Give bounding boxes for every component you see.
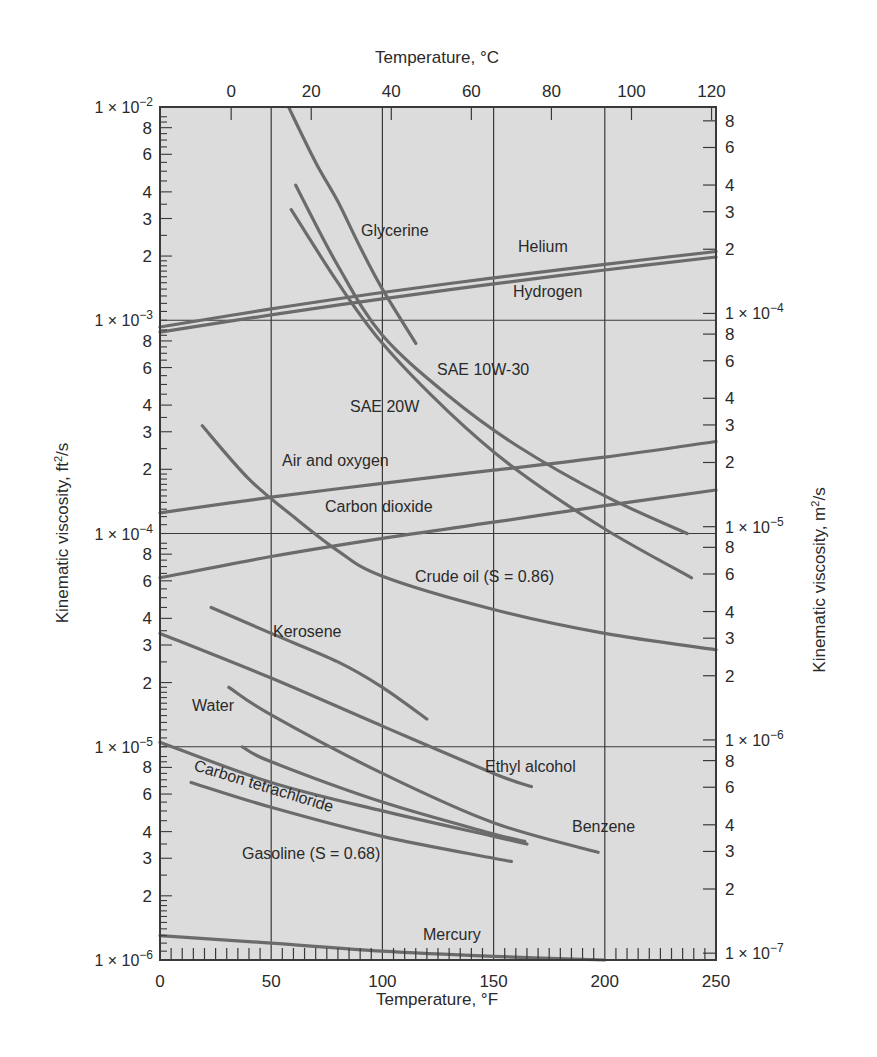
y2-tick-label: 3 xyxy=(725,842,734,861)
curve-label: Mercury xyxy=(423,926,481,943)
y2-decade-label: 1 × 10−5 xyxy=(725,515,784,536)
y2-tick-label: 4 xyxy=(725,176,734,195)
y2-tick-label: 6 xyxy=(725,778,734,797)
y2-tick-label: 2 xyxy=(725,880,734,899)
x2-tick-label: 100 xyxy=(617,82,645,101)
curve-label: Glycerine xyxy=(361,222,429,239)
y-decade-label: 1 × 10−6 xyxy=(94,948,153,969)
y2-tick-label: 4 xyxy=(725,389,734,408)
y2-tick-label: 2 xyxy=(725,240,734,259)
y-tick-label: 6 xyxy=(143,359,152,378)
y2-decade-label: 1 × 10−7 xyxy=(725,941,784,962)
y2-tick-label: 4 xyxy=(725,603,734,622)
y2-tick-label: 8 xyxy=(725,538,734,557)
y-tick-label: 8 xyxy=(143,119,152,138)
y-tick-label: 4 xyxy=(143,396,152,415)
y-tick-label: 8 xyxy=(143,332,152,351)
x-tick-label: 0 xyxy=(155,972,164,991)
y-tick-label: 2 xyxy=(143,460,152,479)
curve-label: Crude oil (S = 0.86) xyxy=(415,568,554,585)
y-decade-label: 1 × 10−4 xyxy=(94,522,153,543)
curve-label: Benzene xyxy=(572,818,635,835)
y2-tick-label: 8 xyxy=(725,112,734,131)
y-tick-label: 6 xyxy=(143,145,152,164)
curve-label: SAE 10W-30 xyxy=(437,361,529,378)
y-tick-label: 2 xyxy=(143,247,152,266)
x-tick-label: 50 xyxy=(262,972,281,991)
y-tick-label: 3 xyxy=(143,210,152,229)
x2-tick-label: 40 xyxy=(382,82,401,101)
y2-tick-label: 6 xyxy=(725,565,734,584)
y2-tick-label: 2 xyxy=(725,453,734,472)
y-decade-label: 1 × 10−2 xyxy=(94,95,153,116)
y-tick-label: 6 xyxy=(143,785,152,804)
y2-tick-label: 3 xyxy=(725,416,734,435)
y-decade-label: 1 × 10−3 xyxy=(94,308,153,329)
y-decade-label: 1 × 10−5 xyxy=(94,735,153,756)
y-tick-label: 2 xyxy=(143,887,152,906)
y2-tick-label: 6 xyxy=(725,352,734,371)
curve-label: Hydrogen xyxy=(513,283,582,300)
x-tick-label: 100 xyxy=(368,972,396,991)
x2-axis-title: Temperature, °C xyxy=(375,48,499,67)
y-tick-label: 4 xyxy=(143,823,152,842)
chart-canvas: 0501001502002500204060801001202346823468… xyxy=(0,0,877,1057)
curve-label: Ethyl alcohol xyxy=(485,758,576,775)
x-tick-label: 250 xyxy=(702,972,730,991)
curve-label: Carbon dioxide xyxy=(325,498,433,515)
viscosity-chart: 0501001502002500204060801001202346823468… xyxy=(0,0,877,1057)
x-tick-label: 200 xyxy=(591,972,619,991)
y2-decade-label: 1 × 10−6 xyxy=(725,728,784,749)
curve-label: Air and oxygen xyxy=(282,452,389,469)
y2-tick-label: 8 xyxy=(725,752,734,771)
y-axis-title-right: Kinematic viscosity, m2/s xyxy=(809,487,829,672)
y-tick-label: 4 xyxy=(143,609,152,628)
y-tick-label: 3 xyxy=(143,423,152,442)
curve-label: Gasoline (S = 0.68) xyxy=(242,845,380,862)
y-tick-label: 3 xyxy=(143,636,152,655)
y2-tick-label: 8 xyxy=(725,325,734,344)
curve-label: Water xyxy=(192,697,235,714)
x2-tick-label: 60 xyxy=(462,82,481,101)
y-tick-label: 6 xyxy=(143,572,152,591)
x2-tick-label: 0 xyxy=(226,82,235,101)
y2-tick-label: 2 xyxy=(725,667,734,686)
y-axis-title-left: Kinematic viscosity, ft2/s xyxy=(52,443,72,624)
y-tick-label: 8 xyxy=(143,758,152,777)
y2-tick-label: 3 xyxy=(725,203,734,222)
x2-tick-label: 20 xyxy=(302,82,321,101)
y-tick-label: 2 xyxy=(143,674,152,693)
curve-label: SAE 20W xyxy=(350,398,420,415)
x2-tick-label: 80 xyxy=(542,82,561,101)
y-tick-label: 8 xyxy=(143,545,152,564)
curve-label: Helium xyxy=(518,238,568,255)
x-axis-title: Temperature, °F xyxy=(376,990,498,1009)
curve-label: Kerosene xyxy=(273,623,342,640)
y2-tick-label: 4 xyxy=(725,816,734,835)
x2-tick-label: 120 xyxy=(697,82,725,101)
y-tick-label: 4 xyxy=(143,183,152,202)
y2-tick-label: 6 xyxy=(725,138,734,157)
x-tick-label: 150 xyxy=(479,972,507,991)
y2-tick-label: 3 xyxy=(725,629,734,648)
y-tick-label: 3 xyxy=(143,849,152,868)
y2-decade-label: 1 × 10−4 xyxy=(725,301,784,322)
